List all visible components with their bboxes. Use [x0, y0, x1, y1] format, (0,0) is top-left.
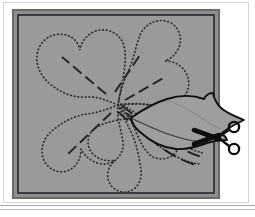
figure-canvas [0, 0, 255, 217]
illustration-figure [0, 0, 255, 217]
